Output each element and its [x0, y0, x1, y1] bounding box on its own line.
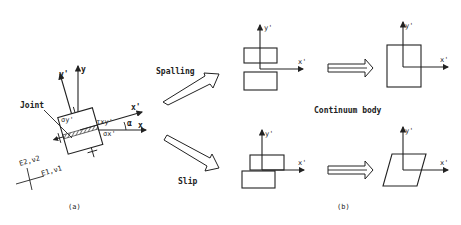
- x-prime-label-b1: x': [298, 58, 306, 66]
- y-prime-label-b3: y': [265, 130, 273, 138]
- x-axis-label: x: [138, 121, 143, 130]
- caption-a: (a): [68, 203, 81, 211]
- y-prime-axis-label: y': [59, 70, 69, 79]
- y-prime-label-b1: y': [264, 24, 272, 32]
- continuum-block: [387, 45, 421, 87]
- sigma-y-label: σy': [61, 116, 74, 124]
- y-axis-label: y: [81, 65, 86, 74]
- spalling-arrow: [163, 73, 219, 105]
- slip-label: Slip: [178, 176, 197, 186]
- top-stress-tick: [73, 107, 75, 113]
- joint-label: Joint: [20, 100, 44, 110]
- x-prime-axis-label: x': [131, 103, 141, 112]
- continuum-label: Continuum body: [314, 105, 382, 115]
- slip-sequence: y' x' y' x' (b): [242, 127, 448, 211]
- normal-stress-arrow-left: [54, 137, 64, 140]
- panel-a: y y' x' x α σy' τxy' σx' Join: [16, 65, 146, 211]
- caption-b: (b): [337, 203, 350, 211]
- material-1-label: E1,ν1: [40, 164, 62, 178]
- joint-model-diagram: y y' x' x α σy' τxy' σx' Join: [0, 0, 461, 225]
- lower-block: [244, 72, 277, 90]
- interface-normal: [27, 168, 32, 190]
- y-prime-label-b4: y': [405, 127, 413, 135]
- spalling-label: Spalling: [156, 66, 195, 76]
- slip-arrow: [164, 135, 219, 171]
- spalling-sequence: y' x' y' x' Continuum body: [244, 22, 448, 115]
- bottom-stress-tick: [91, 148, 94, 158]
- sigma-x-label: σx': [103, 130, 116, 138]
- angle-label: α: [127, 119, 132, 128]
- angle-arc: [124, 122, 126, 130]
- x-prime-label-b4: x': [440, 159, 448, 167]
- lower-slip-block: [242, 171, 275, 188]
- material-2-label: E2,ν2: [18, 154, 40, 168]
- transition-arrows: Spalling Slip: [156, 66, 219, 186]
- tau-label: τxy': [96, 118, 113, 126]
- y-prime-label-b2: y': [405, 22, 413, 30]
- x-prime-label-b3: x': [298, 159, 306, 167]
- upper-slip-block: [250, 155, 284, 170]
- x-prime-label-b2: x': [440, 56, 448, 64]
